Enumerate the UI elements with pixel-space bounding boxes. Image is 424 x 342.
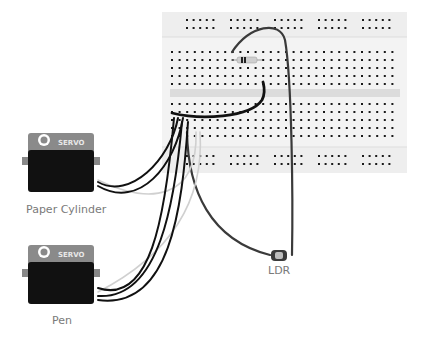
servo-brand: SERVO — [58, 139, 85, 147]
ldr-label: LDR — [268, 264, 290, 277]
svg-text:SERVO: SERVO — [58, 251, 85, 259]
circuit-diagram: SERVO SERVO — [0, 0, 424, 342]
servo-1-label: Paper Cylinder — [26, 203, 106, 216]
servo-paper-cylinder: SERVO — [22, 133, 100, 192]
center-channel — [170, 89, 400, 97]
servo-2-label: Pen — [52, 314, 72, 327]
servo-pen: SERVO — [22, 245, 100, 304]
ldr-sensor — [271, 250, 287, 261]
